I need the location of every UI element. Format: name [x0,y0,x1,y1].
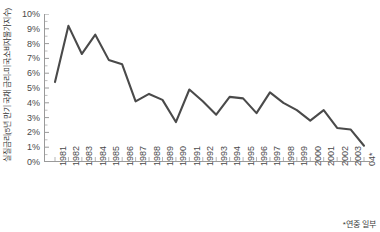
y-tick-label: 8% [27,39,40,48]
data-series-line [55,26,364,146]
x-tick-label: 1987 [139,146,148,166]
x-tick-label: 2002 [341,146,350,166]
x-axis-tick-labels: 1981198219831984198519861987198819891990… [44,164,370,210]
y-axis-title: 실질금리(5년 만기 국채 금리-미국소비자물가지수) [0,0,16,170]
x-tick-label: 1983 [85,146,94,166]
y-tick-label: 0% [27,158,40,167]
x-tick-label: 1998 [287,146,296,166]
y-axis-ticks [45,14,50,162]
x-tick-label: 1994 [233,146,242,166]
x-tick-label: 1986 [126,146,135,166]
chart-footnote: *연중 일부 [343,221,376,229]
plot-area [44,14,370,162]
x-tick-label: 1992 [206,146,215,166]
x-tick-label: 2000 [314,146,323,166]
x-tick-label: 1989 [166,146,175,166]
y-tick-label: 6% [27,69,40,78]
y-tick-label: 3% [27,113,40,122]
y-tick-label: 7% [27,54,40,63]
y-tick-label: 4% [27,98,40,107]
x-tick-label: 04* [368,152,377,166]
y-tick-label: 10% [22,10,40,19]
x-tick-label: 1996 [260,146,269,166]
x-tick-label: 1991 [193,146,202,166]
x-tick-label: 1982 [72,146,81,166]
x-tick-label: 2003 [354,146,363,166]
y-tick-label: 1% [27,143,40,152]
x-tick-label: 1993 [220,146,229,166]
x-tick-label: 1999 [300,146,309,166]
x-tick-label: 1997 [273,146,282,166]
y-axis-title-text: 실질금리(5년 만기 국채 금리-미국소비자물가지수) [4,8,12,162]
x-tick-label: 1995 [247,146,256,166]
x-tick-label: 1981 [59,146,68,166]
x-tick-label: 1988 [153,146,162,166]
y-tick-label: 5% [27,84,40,93]
y-tick-label: 9% [27,24,40,33]
x-tick-label: 1984 [99,146,108,166]
y-axis-tick-labels: 0%1%2%3%4%5%6%7%8%9%10% [16,14,42,162]
x-tick-label: 1985 [112,146,121,166]
chart-page: 실질금리(5년 만기 국채 금리-미국소비자물가지수) 0%1%2%3%4%5%… [0,0,380,232]
y-tick-label: 2% [27,128,40,137]
x-tick-label: 1990 [179,146,188,166]
x-tick-label: 2001 [327,146,336,166]
line-chart-svg [44,14,370,162]
